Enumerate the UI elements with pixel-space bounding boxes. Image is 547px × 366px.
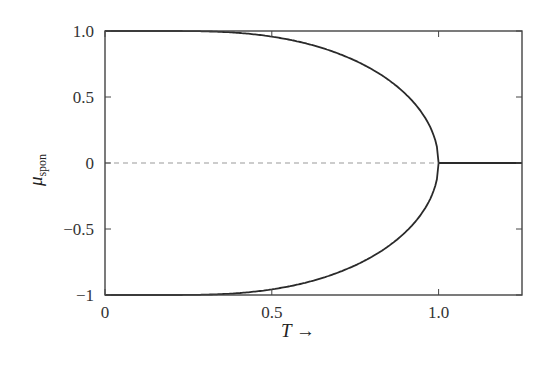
x-tick-label: 0.5 [261,303,282,322]
plot-area [105,31,522,295]
x-tick-label: 0 [101,303,110,322]
y-axis-subscript: spon [35,154,49,177]
tick-labels: 00.51.01.00.50−0.5−1 [63,22,449,322]
chart: 00.51.01.00.50−0.5−1 T → μspon [0,0,547,366]
y-tick-label: 1.0 [73,22,94,41]
y-tick-label: 0 [86,154,95,173]
y-axis-symbol: μ [25,177,46,188]
x-tick-label: 1.0 [428,303,449,322]
series-upper-branch [105,31,439,163]
x-axis-label: T → [281,320,315,341]
y-tick-label: 0.5 [73,88,94,107]
series-lower-branch [105,163,439,295]
y-tick-label: −0.5 [63,220,94,239]
y-axis-label: μspon [25,154,49,187]
y-tick-label: −1 [76,286,94,305]
